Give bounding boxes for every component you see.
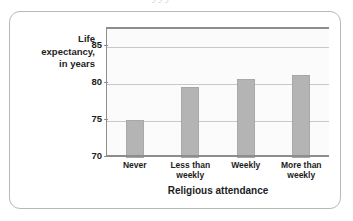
plot-inner [107,29,329,156]
y-axis-title-line-3: in years [8,58,95,71]
y-tick-mark-80 [104,82,108,83]
x-category-label-3: More thanweekly [274,160,330,180]
x-category-label-0: Never [107,160,163,170]
y-tick-label-75: 75 [80,113,102,124]
y-tick-label-80: 80 [80,76,102,87]
bar-1 [181,87,199,158]
plot-area [107,27,329,156]
x-category-label-3-line-0: More than [274,160,330,170]
y-tick-label-70: 70 [80,150,102,161]
x-category-label-1: Less thanweekly [163,160,219,180]
x-category-label-2-line-0: Weekly [218,160,274,170]
x-category-label-1-line-1: weekly [163,170,219,180]
bar-3 [292,75,310,158]
x-axis-line [107,155,329,157]
x-category-label-1-line-0: Less than [163,160,219,170]
x-category-label-0-line-0: Never [107,160,163,170]
x-axis-title: Religious attendance [107,185,329,196]
gridline-85 [107,47,329,48]
bar-2 [237,79,255,158]
x-category-label-3-line-1: weekly [274,170,330,180]
bar-0 [126,120,144,158]
x-category-label-2: Weekly [218,160,274,170]
y-tick-label-85: 85 [80,39,102,50]
y-tick-mark-75 [104,119,108,120]
y-tick-mark-85 [104,45,108,46]
clipped-text-artifact: yyy [152,0,212,3]
y-tick-mark-70 [104,156,108,157]
